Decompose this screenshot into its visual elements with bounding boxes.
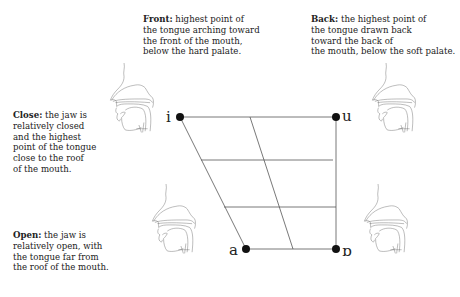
vowel-dot-i (176, 113, 184, 121)
vowel-dot-a (242, 245, 250, 253)
head-close-back (372, 63, 415, 132)
vowel-label-u: u (342, 107, 352, 125)
vowel-label-i: i (166, 108, 171, 126)
vowel-diagram: i u a ɒ (0, 0, 460, 297)
vowel-quadrilateral (180, 117, 336, 249)
head-open-back (364, 184, 407, 253)
left-edge (180, 117, 246, 249)
vowel-points: i u a ɒ (166, 107, 352, 260)
vowel-dot-u (332, 113, 340, 121)
vowel-dot-open-back (332, 245, 340, 253)
vowel-label-open-back: ɒ (342, 242, 352, 260)
head-open-front (152, 184, 195, 253)
vowel-label-a: a (229, 241, 238, 259)
central-line (250, 117, 293, 249)
head-close-front (110, 63, 153, 132)
